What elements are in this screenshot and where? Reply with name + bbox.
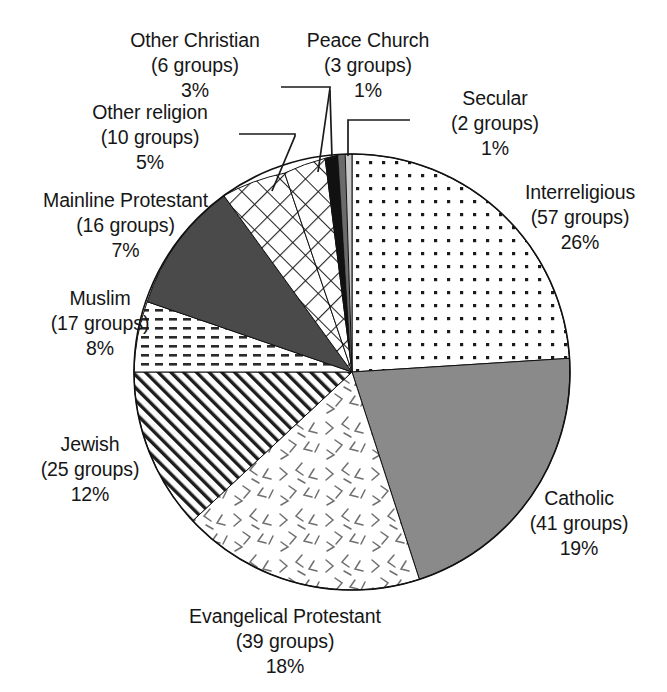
label-mainline-protestant-groups: (16 groups): [18, 213, 233, 238]
label-jewish: Jewish (25 groups) 12%: [10, 432, 170, 507]
label-peace-church-name: Peace Church: [288, 28, 448, 53]
label-muslim: Muslim (17 groups) 8%: [20, 286, 180, 361]
label-interreligious-name: Interreligious: [495, 180, 665, 205]
label-evangelical-protestant-percent: 18%: [140, 654, 430, 679]
label-catholic-percent: 19%: [494, 536, 664, 561]
label-muslim-name: Muslim: [20, 286, 180, 311]
label-interreligious-groups: (57 groups): [495, 205, 665, 230]
label-mainline-protestant: Mainline Protestant (16 groups) 7%: [18, 188, 233, 263]
label-evangelical-protestant: Evangelical Protestant (39 groups) 18%: [140, 604, 430, 679]
label-catholic-name: Catholic: [494, 486, 664, 511]
label-jewish-name: Jewish: [10, 432, 170, 457]
label-other-christian-name: Other Christian: [100, 28, 290, 53]
leader-secular: [348, 120, 410, 156]
label-jewish-groups: (25 groups): [10, 457, 170, 482]
label-muslim-percent: 8%: [20, 336, 180, 361]
label-muslim-groups: (17 groups): [20, 311, 180, 336]
label-secular-percent: 1%: [415, 136, 575, 161]
label-jewish-percent: 12%: [10, 482, 170, 507]
label-other-religion-name: Other religion: [60, 100, 240, 125]
label-mainline-protestant-percent: 7%: [18, 238, 233, 263]
label-other-religion-percent: 5%: [60, 150, 240, 175]
label-catholic-groups: (41 groups): [494, 511, 664, 536]
label-evangelical-protestant-name: Evangelical Protestant: [140, 604, 430, 629]
label-interreligious: Interreligious (57 groups) 26%: [495, 180, 665, 255]
label-secular-groups: (2 groups): [415, 111, 575, 136]
label-mainline-protestant-name: Mainline Protestant: [18, 188, 233, 213]
label-interreligious-percent: 26%: [495, 230, 665, 255]
label-peace-church-groups: (3 groups): [288, 53, 448, 78]
label-evangelical-protestant-groups: (39 groups): [140, 629, 430, 654]
label-catholic: Catholic (41 groups) 19%: [494, 486, 664, 561]
label-secular: Secular (2 groups) 1%: [415, 86, 575, 161]
pie-chart-figure: Other Christian (6 groups) 3% Peace Chur…: [0, 0, 667, 692]
label-other-religion-groups: (10 groups): [60, 125, 240, 150]
label-other-christian-groups: (6 groups): [100, 53, 290, 78]
label-other-religion: Other religion (10 groups) 5%: [60, 100, 240, 175]
label-other-christian: Other Christian (6 groups) 3%: [100, 28, 290, 103]
label-secular-name: Secular: [415, 86, 575, 111]
